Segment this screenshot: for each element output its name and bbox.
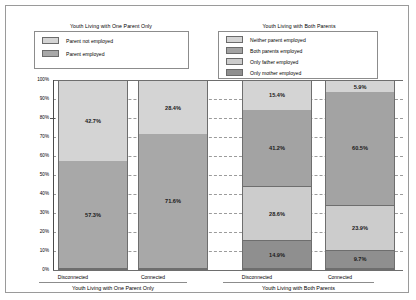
ytick-label-90: 90% xyxy=(20,96,49,101)
segment-parent-not-employed[interactable]: 42.7% xyxy=(59,81,127,161)
right-legend-box: Neither parent employed Both parents emp… xyxy=(218,31,378,79)
legend-label-only-mother-employed: Only mother employed xyxy=(250,70,301,76)
y-axis-line xyxy=(53,80,54,270)
ytick-label-50: 50% xyxy=(20,172,49,177)
ytick-label-0: 0% xyxy=(20,267,49,272)
segment-parent-employed[interactable]: 71.6% xyxy=(139,134,207,269)
swatch-neither-parent-employed xyxy=(226,36,243,43)
group-label-both-parents: Youth Living with Both Parents xyxy=(223,285,374,291)
bar-both-parents-disconnected[interactable]: 15.4% 41.2% 28.6% 14.9% xyxy=(242,80,312,270)
ytick-label-60: 60% xyxy=(20,153,49,158)
plot-area: 100% 90% 80% 70% 60% 50% 40% 30% 20% 10%… xyxy=(20,80,403,270)
legend-label-both-parents-employed: Both parents employed xyxy=(250,48,302,54)
legend-item-only-mother-employed: Only mother employed xyxy=(226,69,301,76)
segment-only-father-employed[interactable]: 23.9% xyxy=(326,206,394,251)
segment-both-parents-employed[interactable]: 41.2% xyxy=(243,110,311,187)
legend-item-both-parents-employed: Both parents employed xyxy=(226,47,302,54)
ytick-label-70: 70% xyxy=(20,134,49,139)
group-label-one-parent-only: Youth Living with One Parent Only xyxy=(38,285,188,291)
legend-label-neither-parent-employed: Neither parent employed xyxy=(250,37,306,43)
ytick-label-20: 20% xyxy=(20,229,49,234)
chart-frame: Youth Living with One Parent Only Parent… xyxy=(5,5,409,293)
bar-one-parent-disconnected[interactable]: 42.7% 57.3% xyxy=(58,80,128,270)
category-label-both-parents-disconnected: Disconnected xyxy=(222,274,292,280)
left-legend-title: Youth Living with One Parent Only xyxy=(36,23,186,29)
legend-item-neither-parent-employed: Neither parent employed xyxy=(226,36,306,43)
segment-parent-employed[interactable]: 57.3% xyxy=(59,161,127,269)
legend-item-parent-employed: Parent employed xyxy=(42,50,105,57)
legend-label-parent-not-employed: Parent not employed xyxy=(66,38,113,44)
segment-only-mother-employed[interactable]: 9.7% xyxy=(326,251,394,269)
segment-parent-not-employed[interactable]: 28.4% xyxy=(139,81,207,134)
segment-both-parents-employed[interactable]: 60.5% xyxy=(326,92,394,206)
left-legend-box: Parent not employed Parent employed xyxy=(34,31,189,69)
right-legend-title: Youth Living with Both Parents xyxy=(224,23,374,29)
ytick-label-40: 40% xyxy=(20,191,49,196)
ytick-label-80: 80% xyxy=(20,115,49,120)
legend-item-parent-not-employed: Parent not employed xyxy=(42,37,113,44)
swatch-parent-not-employed xyxy=(42,37,59,44)
ytick-label-30: 30% xyxy=(20,210,49,215)
legend-label-only-father-employed: Only father employed xyxy=(250,59,298,65)
bar-one-parent-connected[interactable]: 28.4% 71.6% xyxy=(138,80,208,270)
ytick-label-100: 100% xyxy=(20,77,49,82)
category-label-one-parent-connected: Connected xyxy=(118,274,188,280)
group-rule-right xyxy=(223,282,374,283)
segment-neither-parent-employed[interactable]: 5.9% xyxy=(326,81,394,92)
category-label-one-parent-disconnected: Disconnected xyxy=(38,274,108,280)
swatch-both-parents-employed xyxy=(226,47,243,54)
legend-item-only-father-employed: Only father employed xyxy=(226,58,298,65)
ytick-label-10: 10% xyxy=(20,248,49,253)
segment-only-father-employed[interactable]: 28.6% xyxy=(243,187,311,241)
swatch-only-mother-employed xyxy=(226,69,243,76)
category-label-both-parents-connected: Connected xyxy=(305,274,375,280)
gridline-0 xyxy=(53,270,403,271)
swatch-only-father-employed xyxy=(226,58,243,65)
swatch-parent-employed xyxy=(42,50,59,57)
group-rule-left xyxy=(39,282,187,283)
bar-both-parents-connected[interactable]: 5.9% 60.5% 23.9% 9.7% xyxy=(325,80,395,270)
legend-label-parent-employed: Parent employed xyxy=(66,51,105,57)
segment-only-mother-employed[interactable]: 14.9% xyxy=(243,241,311,269)
segment-neither-parent-employed[interactable]: 15.4% xyxy=(243,81,311,110)
